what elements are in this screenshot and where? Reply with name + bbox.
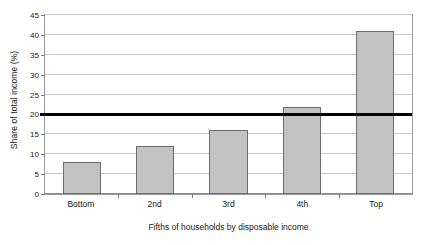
bar-3rd[interactable] <box>209 130 247 194</box>
equal-share-reference-line <box>40 113 412 116</box>
x-axis-tick-mark <box>339 194 340 198</box>
y-axis-tick-label: 5 <box>35 170 39 179</box>
x-axis-tick-mark <box>265 194 266 198</box>
y-axis-tick-label: 25 <box>30 90 39 99</box>
bars-layer <box>45 15 412 194</box>
bar-chart: Share of total income (%) 05101520253035… <box>0 0 433 245</box>
y-axis-tick-label: 20 <box>30 110 39 119</box>
bar-slot <box>118 15 191 194</box>
y-axis-tick-mark <box>41 194 45 195</box>
bar-bottom[interactable] <box>63 162 101 194</box>
x-axis-labels: Bottom2nd3rd4thTop <box>44 199 413 209</box>
plot-area: 051015202530354045 <box>44 14 413 195</box>
x-axis-title: Fifths of households by disposable incom… <box>44 222 413 232</box>
x-axis-tick-mark <box>118 194 119 198</box>
y-axis-tick-label: 15 <box>30 130 39 139</box>
bar-2nd[interactable] <box>136 146 174 194</box>
y-axis-tick-label: 0 <box>35 190 39 199</box>
bar-slot <box>45 15 118 194</box>
x-axis-label-4th: 4th <box>265 199 339 209</box>
x-axis-label-top: Top <box>339 199 413 209</box>
bar-slot <box>339 15 412 194</box>
bar-4th[interactable] <box>283 107 321 195</box>
y-axis-tick-label: 30 <box>30 70 39 79</box>
bar-slot <box>265 15 338 194</box>
y-axis-tick-label: 35 <box>30 50 39 59</box>
y-axis-tick-label: 10 <box>30 150 39 159</box>
y-axis-title: Share of total income (%) <box>5 0 23 200</box>
y-axis-title-text: Share of total income (%) <box>9 51 19 149</box>
y-axis-tick-label: 45 <box>30 11 39 20</box>
x-axis-label-bottom: Bottom <box>44 199 118 209</box>
y-axis-tick-label: 40 <box>30 30 39 39</box>
x-axis-tick-mark <box>192 194 193 198</box>
x-axis-label-3rd: 3rd <box>192 199 266 209</box>
x-axis-label-2nd: 2nd <box>118 199 192 209</box>
bar-slot <box>192 15 265 194</box>
